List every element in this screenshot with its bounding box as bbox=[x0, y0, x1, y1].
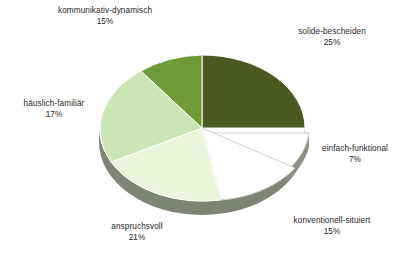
pie-label-name: anspruchsvoll bbox=[82, 222, 192, 233]
pie-label-name: solide-bescheiden bbox=[266, 27, 398, 38]
pie-label-konventionell-situiert: konventionell-situiert 15% bbox=[262, 216, 402, 237]
pie-label-value: 15% bbox=[30, 17, 180, 28]
pie-label-haeuslich-familiaer: häuslich-familiär 17% bbox=[2, 99, 106, 120]
pie-label-value: 25% bbox=[266, 38, 398, 49]
pie-label-value: 15% bbox=[262, 227, 402, 238]
pie-label-name: konventionell-situiert bbox=[262, 216, 402, 227]
pie-label-value: 21% bbox=[82, 233, 192, 244]
pie-label-name: häuslich-familiär bbox=[2, 99, 106, 110]
pie-chart: kommunikativ-dynamisch 15% solide-besche… bbox=[0, 0, 406, 258]
pie-label-name: kommunikativ-dynamisch bbox=[30, 6, 180, 17]
pie-label-value: 17% bbox=[2, 110, 106, 121]
pie-label-einfach-funktional: einfach-funktional 7% bbox=[306, 144, 404, 165]
pie-label-solide-bescheiden: solide-bescheiden 25% bbox=[266, 27, 398, 48]
pie-slice-solide-bescheiden[interactable] bbox=[202, 55, 305, 128]
pie-label-name: einfach-funktional bbox=[306, 144, 404, 155]
pie-label-anspruchsvoll: anspruchsvoll 21% bbox=[82, 222, 192, 243]
pie-slices bbox=[100, 55, 309, 201]
pie-label-value: 7% bbox=[306, 155, 404, 166]
pie-label-kommunikativ-dynamisch: kommunikativ-dynamisch 15% bbox=[30, 6, 180, 27]
pie-chart-page: kommunikativ-dynamisch 15% solide-besche… bbox=[0, 0, 406, 258]
